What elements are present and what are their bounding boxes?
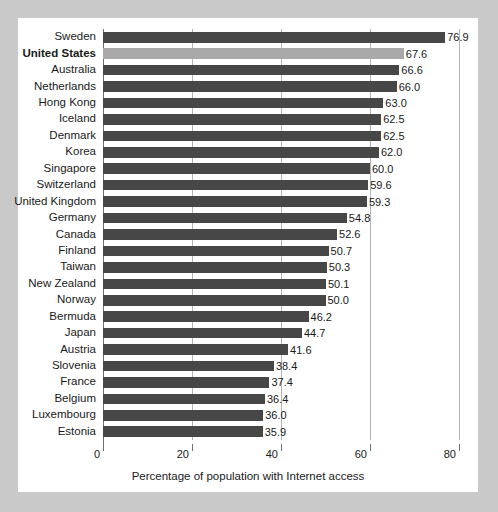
bar-row: 38.4 xyxy=(103,361,459,372)
x-tick-60 xyxy=(370,444,371,451)
category-label-denmark: Denmark xyxy=(49,130,96,142)
bar-slovenia xyxy=(103,361,274,372)
bar-finland xyxy=(103,246,329,257)
bar-row: 54.8 xyxy=(103,213,459,224)
bar-united-states xyxy=(103,48,404,59)
category-label-korea: Korea xyxy=(65,147,96,159)
bar-row: 36.0 xyxy=(103,410,459,421)
bar-taiwan xyxy=(103,262,327,273)
bar-canada xyxy=(103,229,337,240)
x-tick-20 xyxy=(192,444,193,451)
bar-value-label: 67.6 xyxy=(404,48,427,59)
category-label-united-states: United States xyxy=(23,48,97,60)
bar-row: 36.4 xyxy=(103,394,459,405)
bar-value-label: 36.0 xyxy=(263,410,286,421)
bar-sweden xyxy=(103,32,445,43)
bar-luxembourg xyxy=(103,410,263,421)
category-label-germany: Germany xyxy=(49,212,96,224)
x-tick-80 xyxy=(459,444,460,451)
bar-row: 59.6 xyxy=(103,180,459,191)
bar-value-label: 52.6 xyxy=(337,229,360,240)
bar-united-kingdom xyxy=(103,196,367,207)
bar-value-label: 44.7 xyxy=(302,328,325,339)
category-label-taiwan: Taiwan xyxy=(60,262,96,274)
gridline-80 xyxy=(459,29,460,440)
bar-value-label: 50.3 xyxy=(327,262,350,273)
bar-value-label: 66.6 xyxy=(399,65,422,76)
x-tick-label-0: 0 xyxy=(94,449,103,460)
x-tick-label-40: 40 xyxy=(266,449,281,460)
category-label-finland: Finland xyxy=(58,245,96,257)
x-tick-0 xyxy=(103,444,104,451)
bar-value-label: 59.6 xyxy=(368,180,391,191)
x-axis: 020406080 xyxy=(103,444,459,466)
bar-row: 59.3 xyxy=(103,196,459,207)
category-label-australia: Australia xyxy=(51,64,96,76)
bar-value-label: 35.9 xyxy=(263,426,286,437)
bar-denmark xyxy=(103,131,381,142)
bar-row: 41.6 xyxy=(103,344,459,355)
bar-row: 50.1 xyxy=(103,279,459,290)
bar-hong-kong xyxy=(103,98,383,109)
bar-value-label: 62.5 xyxy=(381,130,404,141)
category-label-singapore: Singapore xyxy=(44,163,96,175)
bar-row: 44.7 xyxy=(103,328,459,339)
bar-row: 62.5 xyxy=(103,131,459,142)
bar-value-label: 66.0 xyxy=(397,81,420,92)
category-label-hong-kong: Hong Kong xyxy=(38,97,96,109)
bar-belgium xyxy=(103,394,265,405)
bar-row: 37.4 xyxy=(103,377,459,388)
bar-austria xyxy=(103,344,288,355)
category-label-switzerland: Switzerland xyxy=(37,179,96,191)
bar-row: 50.7 xyxy=(103,246,459,257)
bar-australia xyxy=(103,65,399,76)
bar-singapore xyxy=(103,163,370,174)
bar-row: 62.0 xyxy=(103,147,459,158)
bar-row: 46.2 xyxy=(103,311,459,322)
bar-switzerland xyxy=(103,180,368,191)
bar-estonia xyxy=(103,426,263,437)
bar-value-label: 50.0 xyxy=(326,295,349,306)
bar-row: 62.5 xyxy=(103,114,459,125)
bar-value-label: 38.4 xyxy=(274,361,297,372)
category-label-united-kingdom: United Kingdom xyxy=(14,196,96,208)
bar-value-label: 46.2 xyxy=(309,311,332,322)
x-tick-label-60: 60 xyxy=(355,449,370,460)
bar-value-label: 54.8 xyxy=(347,213,370,224)
bar-netherlands xyxy=(103,81,397,92)
category-label-luxembourg: Luxembourg xyxy=(32,410,96,422)
category-label-slovenia: Slovenia xyxy=(52,360,96,372)
chart-figure: SwedenUnited StatesAustraliaNetherlandsH… xyxy=(18,18,478,492)
category-label-netherlands: Netherlands xyxy=(34,81,96,93)
bar-value-label: 41.6 xyxy=(288,344,311,355)
bar-row: 66.6 xyxy=(103,65,459,76)
category-label-estonia: Estonia xyxy=(58,426,96,438)
bar-value-label: 62.0 xyxy=(379,147,402,158)
x-tick-40 xyxy=(281,444,282,451)
bar-value-label: 37.4 xyxy=(269,377,292,388)
category-label-france: France xyxy=(60,377,96,389)
category-label-canada: Canada xyxy=(56,229,96,241)
bar-value-label: 76.9 xyxy=(445,32,468,43)
bar-value-label: 50.7 xyxy=(329,245,352,256)
bar-value-label: 36.4 xyxy=(265,393,288,404)
bar-row: 67.6 xyxy=(103,48,459,59)
bar-value-label: 63.0 xyxy=(383,97,406,108)
x-tick-label-20: 20 xyxy=(177,449,192,460)
bar-france xyxy=(103,377,269,388)
bar-row: 50.3 xyxy=(103,262,459,273)
bar-germany xyxy=(103,213,347,224)
bar-bermuda xyxy=(103,311,309,322)
category-label-japan: Japan xyxy=(65,327,96,339)
category-label-sweden: Sweden xyxy=(54,31,96,43)
bar-row: 52.6 xyxy=(103,229,459,240)
category-axis-labels: SwedenUnited StatesAustraliaNetherlandsH… xyxy=(18,29,96,440)
bar-value-label: 62.5 xyxy=(381,114,404,125)
bar-row: 60.0 xyxy=(103,163,459,174)
plot-area: 76.967.666.666.063.062.562.562.060.059.6… xyxy=(103,29,459,440)
x-tick-label-80: 80 xyxy=(444,449,459,460)
category-label-austria: Austria xyxy=(60,344,96,356)
bar-row: 76.9 xyxy=(103,32,459,43)
bar-row: 63.0 xyxy=(103,98,459,109)
bar-value-label: 59.3 xyxy=(367,196,390,207)
